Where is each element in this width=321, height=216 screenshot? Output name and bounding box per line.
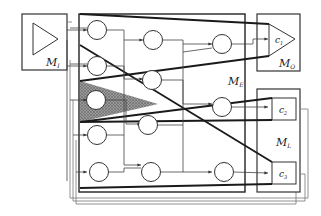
neuron xyxy=(88,21,107,40)
neuron-column-3 xyxy=(213,35,234,182)
loop-module-label: ML xyxy=(275,136,291,149)
neuron xyxy=(139,116,158,135)
neuron xyxy=(142,163,161,182)
loop-module-box: c2 c3 ML xyxy=(257,89,300,192)
neuron xyxy=(87,91,106,110)
input-module-box: MI xyxy=(22,14,67,70)
amplifier-icon xyxy=(33,23,58,55)
neuron xyxy=(88,126,107,145)
neuron xyxy=(88,57,107,76)
input-module-label: MI xyxy=(45,56,60,69)
hidden-module-label: ME xyxy=(227,75,244,88)
neuron-column-1 xyxy=(87,21,109,182)
neuron xyxy=(213,98,232,117)
output-module-box: c1 MO xyxy=(257,14,300,71)
neuron xyxy=(90,163,109,182)
output-module-label: MO xyxy=(278,57,295,70)
neuron xyxy=(215,163,234,182)
neuron xyxy=(213,35,232,54)
neuron xyxy=(143,71,162,90)
neural-module-diagram: MI ME c1 MO c2 c3 ML xyxy=(0,0,321,216)
neuron xyxy=(144,31,163,50)
